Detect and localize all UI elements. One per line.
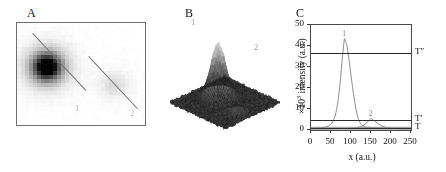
x-tick-label-4: 200	[379, 136, 401, 146]
threshold-label-1: T″	[415, 46, 424, 56]
y-tick-mark-2	[307, 87, 310, 88]
x-tick-mark-4	[390, 130, 391, 133]
y-tick-label-1: 10	[288, 102, 304, 112]
y-tick-mark-4	[307, 45, 310, 46]
y-tick-mark-3	[307, 66, 310, 67]
intensity-curve-1	[311, 39, 411, 129]
intensity-curves	[311, 25, 411, 130]
x-tick-label-2: 100	[339, 136, 361, 146]
x-tick-mark-3	[370, 130, 371, 133]
panel-a-spot-label-1: 1	[75, 103, 79, 113]
panel-b-peak-label-2: 2	[254, 42, 258, 52]
y-tick-label-5: 50	[288, 18, 304, 28]
x-tick-mark-0	[310, 130, 311, 133]
y-axis-title-exponent: 3	[295, 96, 302, 99]
panel-a-frame: 1 2	[16, 22, 146, 126]
panel-c-chart: ×103 intensity (a.u.) 12 01020304050 050…	[286, 16, 444, 168]
panel-letter-a: A	[27, 6, 36, 21]
panel-b-surface: 1 2	[170, 30, 280, 130]
x-tick-label-1: 50	[319, 136, 341, 146]
y-tick-label-0: 0	[288, 123, 304, 133]
x-tick-label-0: 0	[299, 136, 321, 146]
y-axis-title: ×103 intensity (a.u.)	[295, 20, 307, 132]
y-tick-mark-1	[307, 108, 310, 109]
y-tick-label-2: 20	[288, 81, 304, 91]
surface-plot-canvas	[170, 30, 280, 130]
panel-a-spot-label-2: 2	[130, 108, 134, 118]
x-tick-mark-5	[410, 130, 411, 133]
y-tick-mark-5	[307, 24, 310, 25]
threshold-line-1	[311, 53, 411, 54]
y-tick-label-4: 40	[288, 39, 304, 49]
figure-root: A 1 2 B 1 2 C ×103 intensity (a.u.) 12 0…	[0, 0, 446, 172]
x-tick-mark-1	[330, 130, 331, 133]
curve-annotation-2: 2	[369, 108, 373, 118]
x-tick-mark-2	[350, 130, 351, 133]
threshold-label-3: T	[415, 121, 421, 131]
y-tick-label-3: 30	[288, 60, 304, 70]
threshold-line-3	[311, 128, 411, 129]
x-tick-label-3: 150	[359, 136, 381, 146]
curve-annotation-1: 1	[342, 28, 346, 38]
x-tick-label-5: 250	[399, 136, 421, 146]
panel-a-image: 1 2	[16, 22, 146, 126]
panel-b-peak-label-1: 1	[191, 17, 195, 27]
threshold-line-2	[311, 120, 411, 121]
plot-area: 12	[310, 24, 412, 131]
x-axis-title: x (a.u.)	[310, 152, 414, 162]
